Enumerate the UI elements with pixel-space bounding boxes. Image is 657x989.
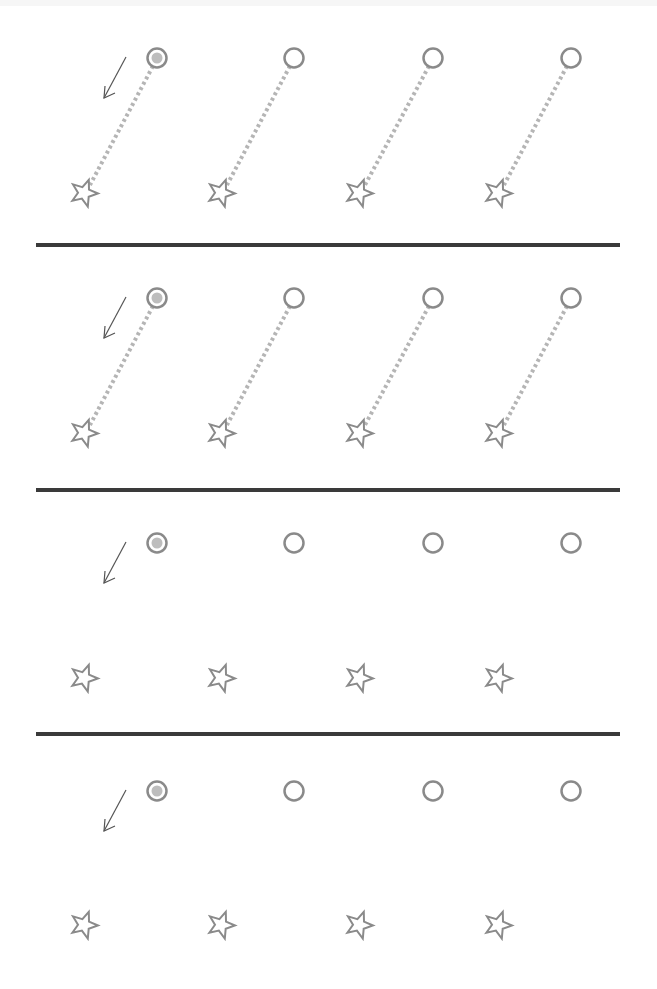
start-circle-icon	[424, 49, 443, 68]
row-divider	[36, 732, 620, 736]
end-star-icon	[72, 665, 98, 692]
row-divider	[36, 488, 620, 492]
dotted-guide-line	[365, 306, 429, 425]
end-star-icon	[209, 912, 235, 939]
worksheet-page	[0, 0, 657, 989]
end-star-icon	[486, 665, 512, 692]
end-star-icon	[72, 420, 98, 447]
dotted-guide-line	[504, 306, 567, 425]
direction-arrow-icon	[104, 57, 126, 98]
end-star-icon	[347, 420, 373, 447]
direction-arrow-icon	[104, 297, 126, 338]
start-dot-icon	[152, 786, 163, 797]
start-circle-icon	[285, 534, 304, 553]
start-dot-icon	[152, 538, 163, 549]
start-circle-icon	[562, 289, 581, 308]
end-star-icon	[209, 420, 235, 447]
start-circle-icon	[424, 782, 443, 801]
tracing-canvas	[0, 0, 657, 989]
end-star-icon	[347, 665, 373, 692]
dotted-guide-line	[504, 66, 567, 185]
start-dot-icon	[152, 293, 163, 304]
row-divider	[36, 243, 620, 247]
start-circle-icon	[562, 782, 581, 801]
direction-arrow-icon	[104, 790, 126, 831]
start-dot-icon	[152, 53, 163, 64]
start-circle-icon	[562, 534, 581, 553]
end-star-icon	[209, 180, 235, 207]
end-star-icon	[209, 665, 235, 692]
end-star-icon	[486, 180, 512, 207]
end-star-icon	[72, 180, 98, 207]
end-star-icon	[347, 180, 373, 207]
dotted-guide-line	[365, 66, 429, 185]
start-circle-icon	[424, 534, 443, 553]
direction-arrow-icon	[104, 542, 126, 583]
start-circle-icon	[285, 782, 304, 801]
end-star-icon	[486, 420, 512, 447]
end-star-icon	[486, 912, 512, 939]
start-circle-icon	[424, 289, 443, 308]
start-circle-icon	[285, 49, 304, 68]
end-star-icon	[347, 912, 373, 939]
dotted-guide-line	[90, 66, 153, 185]
start-circle-icon	[285, 289, 304, 308]
dotted-guide-line	[227, 306, 290, 425]
dotted-guide-line	[90, 306, 153, 425]
start-circle-icon	[562, 49, 581, 68]
dotted-guide-line	[227, 66, 290, 185]
end-star-icon	[72, 912, 98, 939]
